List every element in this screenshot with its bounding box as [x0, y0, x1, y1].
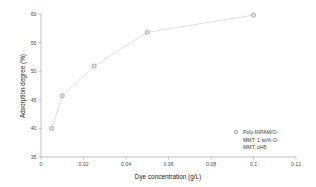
series-data-points: [50, 13, 256, 130]
y-tick-label: 45: [31, 97, 37, 103]
y-axis-ticks: [39, 14, 42, 157]
data-point: [60, 94, 64, 98]
legend-label-line-3: MMT; pH5: [243, 144, 267, 150]
legend-marker-icon: [234, 130, 237, 133]
x-axis-title: Dye concentration (g/L): [135, 173, 201, 181]
chart-container: 354045505560 Adsorption degree (%) 00.02…: [0, 0, 316, 187]
y-tick-label: 55: [31, 40, 37, 46]
data-point: [50, 126, 54, 130]
x-tick-label: 0.04: [121, 161, 131, 167]
legend-label-line-2: MMT: 1 wt% O-: [243, 137, 279, 143]
x-tick-label: 0.08: [206, 161, 216, 167]
y-tick-label: 50: [31, 68, 37, 74]
y-axis: 354045505560 Adsorption degree (%): [19, 11, 41, 160]
legend-label-line-1: Poly-NIPAM/O-: [243, 129, 278, 135]
x-axis-tick-labels: 00.020.040.060.080.10.12: [40, 161, 302, 167]
y-tick-label: 60: [31, 11, 37, 17]
y-axis-tick-labels: 354045505560: [31, 11, 37, 160]
series-line: [52, 15, 254, 128]
y-tick-label: 35: [31, 154, 37, 160]
data-point: [251, 13, 255, 17]
legend: Poly-NIPAM/O- MMT: 1 wt% O- MMT; pH5: [234, 129, 278, 150]
x-axis: 00.020.040.060.080.10.12 Dye concentrati…: [40, 157, 302, 181]
x-tick-label: 0.06: [163, 161, 173, 167]
x-tick-label: 0.1: [250, 161, 257, 167]
data-point: [145, 30, 149, 34]
y-tick-label: 40: [31, 125, 37, 131]
x-tick-label: 0.02: [78, 161, 88, 167]
x-axis-ticks: [41, 157, 296, 160]
y-axis-title: Adsorption degree (%): [19, 54, 27, 118]
x-tick-label: 0: [40, 161, 43, 167]
scatter-plot: 354045505560 Adsorption degree (%) 00.02…: [0, 0, 316, 187]
series-group: [50, 13, 256, 130]
x-tick-label: 0.12: [291, 161, 301, 167]
data-point: [92, 64, 96, 68]
